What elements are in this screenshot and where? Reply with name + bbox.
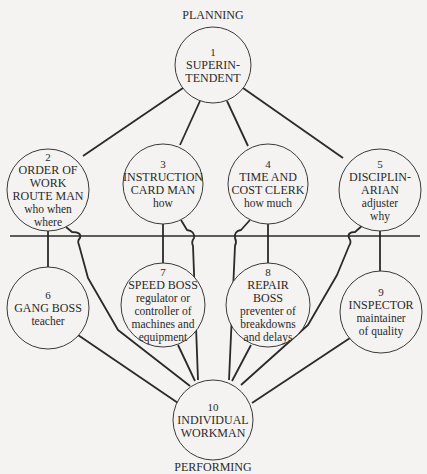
- performing-label: PERFORMING: [163, 460, 263, 474]
- node-subtitle: where: [34, 216, 62, 229]
- node-title: CARD MAN: [131, 184, 195, 197]
- node-individual-workman: 10 INDIVIDUAL WORKMAN: [173, 380, 253, 460]
- node-title: GANG BOSS: [14, 302, 82, 315]
- node-subtitle: how much: [244, 197, 292, 210]
- node-disciplinarian: 5 DISCIPLIN- ARIAN adjuster why: [336, 150, 424, 230]
- node-subtitle: breakdowns: [240, 318, 296, 331]
- node-subtitle: teacher: [31, 315, 64, 328]
- node-speed-boss: 7 SPEED BOSS regulator or controller of …: [119, 263, 207, 347]
- edge-1-4: [227, 101, 248, 146]
- node-order-of-work-route-man: 2 ORDER OF WORK ROUTE MAN who when where: [4, 149, 92, 231]
- edge-1-3: [180, 101, 200, 145]
- node-title: INSPECTOR: [348, 299, 413, 312]
- edge-9-10: [252, 338, 350, 403]
- node-title: ROUTE MAN: [13, 190, 84, 203]
- node-subtitle: equipment: [139, 331, 188, 344]
- node-title: WORKMAN: [181, 427, 246, 440]
- node-title: INDIVIDUAL: [177, 414, 248, 427]
- node-subtitle: regulator or: [136, 292, 190, 305]
- node-subtitle: controller of: [134, 305, 191, 318]
- node-subtitle: of quality: [359, 325, 403, 338]
- edge-7-10: [178, 345, 195, 381]
- edge-8-10: [232, 345, 251, 381]
- node-subtitle: who when: [24, 203, 72, 216]
- node-subtitle: adjuster: [362, 197, 398, 210]
- node-repair-boss: 8 REPAIR BOSS preventer of breakdowns an…: [224, 263, 312, 347]
- node-title: BOSS: [253, 292, 283, 305]
- node-number: 6: [45, 289, 51, 302]
- node-title: SPEED BOSS: [128, 279, 198, 292]
- node-gang-boss: 6 GANG BOSS teacher: [4, 268, 92, 348]
- node-title: ARIAN: [361, 184, 399, 197]
- node-subtitle: preventer of: [240, 305, 296, 318]
- functional-foremanship-diagram: PLANNING PERFORMING 1 SUPERIN- TENDENT 2…: [0, 0, 427, 474]
- node-subtitle: how: [153, 197, 173, 210]
- node-inspector: 9 INSPECTOR maintainer of quality: [337, 272, 425, 352]
- node-title: DISCIPLIN-: [349, 171, 411, 184]
- node-title: COST CLERK: [232, 184, 305, 197]
- node-title: TENDENT: [185, 72, 240, 85]
- node-subtitle: maintainer: [356, 312, 405, 325]
- node-time-and-cost-clerk: 4 TIME AND COST CLERK how much: [224, 144, 312, 224]
- node-instruction-card-man: 3 INSTRUCTION CARD MAN how: [119, 144, 207, 224]
- node-number: 10: [208, 401, 219, 414]
- node-subtitle: why: [370, 210, 390, 223]
- node-superintendent: 1 SUPERIN- TENDENT: [175, 27, 251, 103]
- node-title: SUPERIN-: [186, 59, 240, 72]
- node-number: 5: [377, 158, 383, 171]
- node-number: 1: [210, 46, 216, 59]
- node-subtitle: and delays: [244, 331, 293, 344]
- planning-label: PLANNING: [163, 8, 263, 23]
- node-subtitle: machines and: [132, 318, 195, 331]
